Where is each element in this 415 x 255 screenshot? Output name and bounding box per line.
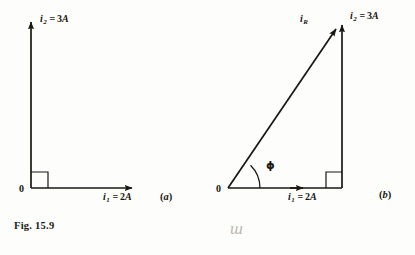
panel-a-paren-close: )	[169, 191, 173, 202]
figure-caption: Fig. 15.9	[14, 221, 54, 232]
i2-unit-b: A	[372, 10, 379, 21]
handwritten-mark: ш	[230, 220, 243, 237]
panel-a-graphics	[31, 22, 132, 188]
i1-label-b: i1=2A	[288, 192, 317, 204]
i2-unit-a: A	[62, 13, 69, 24]
phase-angle-arc	[251, 165, 261, 188]
i1-equals-b: =	[295, 191, 305, 202]
i2-label-a: i2=3A	[40, 14, 69, 26]
i1-unit-b: A	[310, 191, 317, 202]
phasor-diagram-svg	[0, 0, 415, 255]
right-angle-marker-a	[31, 172, 48, 188]
panel-label-a: (a)	[160, 192, 172, 203]
panel-b-graphics	[228, 25, 342, 188]
i1-equals-a: =	[110, 191, 120, 202]
i2-equals-b: =	[357, 10, 367, 21]
i1-unit-a: A	[125, 191, 132, 202]
iR-label-b: iR	[300, 14, 308, 26]
panel-b-paren-close: )	[388, 189, 392, 200]
iR-vector-b	[228, 29, 336, 188]
panel-label-b: (b)	[379, 190, 391, 201]
phase-angle-symbol: ϕ	[266, 160, 275, 171]
i2-equals-a: =	[47, 13, 57, 24]
origin-label-a: 0	[19, 184, 24, 194]
i2-label-b: i2=3A	[350, 11, 379, 23]
iR-subscript-b: R	[303, 18, 308, 26]
figure-15-9: i2=3A 0 i1=2A (a) Fig. 15.9 iR i2=3A ϕ 0…	[0, 0, 415, 255]
i1-label-a: i1=2A	[103, 192, 132, 204]
right-angle-marker-b	[326, 172, 342, 188]
origin-label-b: 0	[216, 184, 221, 194]
